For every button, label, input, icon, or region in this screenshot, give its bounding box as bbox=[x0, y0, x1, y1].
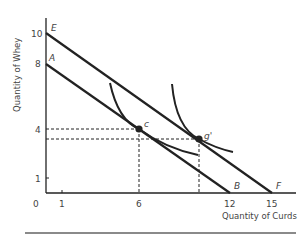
label-b: B bbox=[234, 181, 240, 191]
chart: E A c g' B F 10 8 4 1 0 1 6 12 15 Quanti… bbox=[0, 0, 304, 236]
x-tick-label-0: 0 bbox=[33, 199, 39, 209]
point-c bbox=[135, 125, 142, 132]
x-tick-label-12: 12 bbox=[224, 199, 235, 209]
y-tick-label-1: 1 bbox=[35, 174, 41, 184]
indifference-curve-upper bbox=[172, 84, 233, 152]
y-axis-title: Quantity of Whey bbox=[12, 38, 22, 112]
y-tick-label-4: 4 bbox=[35, 125, 41, 135]
x-tick-label-1: 1 bbox=[59, 199, 65, 209]
budget-line-ef bbox=[46, 33, 272, 193]
label-a: A bbox=[48, 53, 55, 63]
label-f: F bbox=[276, 181, 282, 191]
y-tick-label-8: 8 bbox=[35, 59, 41, 69]
x-tick-label-6: 6 bbox=[136, 199, 142, 209]
label-e: E bbox=[51, 23, 57, 33]
x-axis-title: Quantity of Curds bbox=[222, 211, 297, 221]
y-tick-label-10: 10 bbox=[31, 29, 43, 39]
label-g-prime: g' bbox=[204, 131, 212, 141]
label-c: c bbox=[144, 119, 149, 129]
point-g-prime bbox=[195, 135, 202, 142]
x-tick-label-15: 15 bbox=[266, 199, 277, 209]
bottom-rule bbox=[25, 232, 296, 234]
